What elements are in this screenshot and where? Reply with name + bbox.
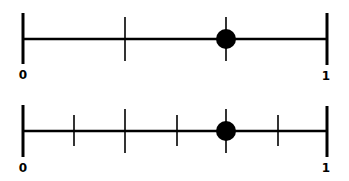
- point-marker: [216, 29, 236, 49]
- end-label: 1: [322, 161, 330, 175]
- start-label: 0: [19, 161, 27, 175]
- point-marker: [216, 121, 236, 141]
- end-label: 1: [322, 69, 330, 83]
- start-label: 0: [19, 68, 27, 82]
- number-line-diagram: 0 1 0 1: [0, 0, 349, 181]
- number-line-top: 0 1: [19, 13, 330, 83]
- number-line-bottom: 0 1: [19, 105, 330, 175]
